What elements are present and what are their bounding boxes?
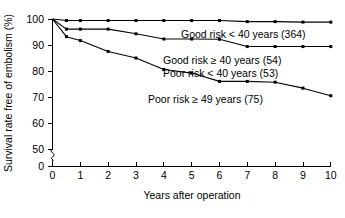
- y-tick-label-50: 50: [32, 143, 44, 155]
- data-point-marker: [246, 80, 249, 83]
- data-point-marker: [134, 19, 137, 22]
- data-point-marker: [218, 80, 221, 83]
- y-axis: 100 90 80 70 60 50 0: [26, 13, 54, 172]
- series-0: [53, 19, 333, 24]
- series-annotation-3: Poor risk ≥ 49 years (75): [148, 93, 263, 105]
- y-axis-title: Survival rate free of embolism (%): [2, 14, 14, 172]
- data-point-marker: [65, 19, 68, 22]
- data-point-marker: [162, 38, 165, 41]
- data-point-marker: [107, 28, 110, 31]
- data-point-marker: [79, 39, 82, 42]
- data-point-marker: [162, 19, 165, 22]
- x-axis: 0 1 2 3 4 5 6 7 8 9 10: [50, 162, 337, 182]
- x-tick-label-9: 9: [300, 169, 306, 181]
- data-point-marker: [134, 32, 137, 35]
- data-point-marker: [107, 19, 110, 22]
- data-point-marker: [246, 20, 249, 23]
- y-axis-break-icon: [51, 149, 54, 161]
- y-tick-label-90: 90: [32, 39, 44, 51]
- x-tick-label-0: 0: [50, 169, 56, 181]
- data-point-marker: [134, 57, 137, 60]
- data-point-marker: [79, 19, 82, 22]
- x-tick-label-10: 10: [325, 169, 337, 181]
- series-annotation-0: Good risk < 40 years (364): [181, 28, 306, 40]
- data-point-marker: [274, 81, 277, 84]
- x-tick-label-1: 1: [77, 169, 83, 181]
- x-tick-label-4: 4: [161, 169, 167, 181]
- data-point-marker: [301, 21, 304, 24]
- data-point-marker: [65, 28, 68, 31]
- y-tick-label-100: 100: [26, 13, 44, 25]
- x-tick-label-6: 6: [217, 169, 223, 181]
- data-point-marker: [301, 87, 304, 90]
- data-point-marker: [65, 35, 68, 38]
- data-point-marker: [274, 20, 277, 23]
- series-annotation-1: Good risk ≥ 40 years (54): [163, 54, 281, 66]
- y-tick-label-60: 60: [32, 117, 44, 129]
- data-point-marker: [329, 21, 332, 24]
- x-tick-label-8: 8: [272, 169, 278, 181]
- series-annotation-2: Poor risk < 40 years (53): [163, 67, 278, 79]
- y-tick-label-0: 0: [38, 160, 44, 172]
- survival-curve-chart: 100 90 80 70 60 50 0 0 1 2 3 4: [0, 0, 345, 218]
- data-point-marker: [190, 19, 193, 22]
- data-point-marker: [301, 45, 304, 48]
- data-point-marker: [246, 45, 249, 48]
- x-tick-label-5: 5: [189, 169, 195, 181]
- chart-figure: 100 90 80 70 60 50 0 0 1 2 3 4: [0, 0, 345, 218]
- y-tick-label-80: 80: [32, 65, 44, 77]
- data-point-marker: [274, 45, 277, 48]
- data-point-marker: [329, 45, 332, 48]
- x-tick-label-3: 3: [133, 169, 139, 181]
- x-axis-title: Years after operation: [143, 189, 240, 201]
- data-point-marker: [329, 94, 332, 97]
- x-tick-label-7: 7: [244, 169, 250, 181]
- data-point-marker: [79, 28, 82, 31]
- x-tick-label-2: 2: [105, 169, 111, 181]
- data-point-marker: [107, 50, 110, 53]
- y-tick-label-70: 70: [32, 91, 44, 103]
- data-point-marker: [218, 19, 221, 22]
